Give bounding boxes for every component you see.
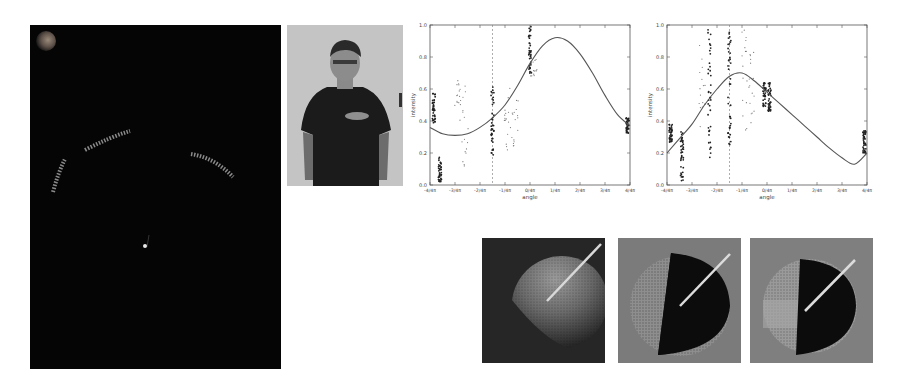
arc-marker-left-lower [53,159,65,192]
sphere-render-3-graphic [750,238,873,363]
sphere-render-3 [750,238,873,363]
rendered-scene-panel [30,25,281,369]
y-tick-label: 1.0 [656,22,664,28]
y-axis-label: intensity [647,92,654,117]
x-tick-label: -1/4π [499,188,511,193]
x-tick-label: 0/4π [762,188,772,193]
y-tick-label: 0.2 [419,150,427,156]
y-tick-label: 1.0 [419,22,427,28]
y-tick-label: 0.2 [656,150,664,156]
y-tick-label: 0.4 [656,118,664,124]
arc-marker-left-upper [85,131,130,150]
intensity-chart-1: 0.00.20.40.60.81.0-4/4π-3/4π-2/4π-1/4π0/… [406,18,646,208]
y-tick-label: 0.4 [419,118,427,124]
x-axis-label: angle [759,194,775,201]
x-tick-label: 4/4π [625,188,635,193]
pointer-line [147,235,149,247]
chart-2-plot: 0.00.20.40.60.81.0-4/4π-3/4π-2/4π-1/4π0/… [643,18,883,208]
x-tick-label: -3/4π [449,188,461,193]
intensity-chart-2: 0.00.20.40.60.81.0-4/4π-3/4π-2/4π-1/4π0/… [643,18,883,208]
sphere-icon [36,31,56,51]
x-tick-label: 1/4π [550,188,560,193]
y-axis-label: intensity [410,92,417,117]
person-photo [287,25,403,186]
plot-frame [430,25,630,185]
sphere-render-2-graphic [618,238,741,363]
x-tick-label: -3/4π [686,188,698,193]
x-tick-label: 4/4π [862,188,872,193]
sphere-render-1-graphic [482,238,605,363]
x-tick-label: -2/4π [474,188,486,193]
chart-1-plot: 0.00.20.40.60.81.0-4/4π-3/4π-2/4π-1/4π0/… [406,18,646,208]
y-tick-label: 0.6 [656,86,664,92]
x-tick-label: -1/4π [736,188,748,193]
x-tick-label: 1/4π [787,188,797,193]
y-tick-label: 0.8 [656,54,664,60]
x-tick-label: 2/4π [575,188,585,193]
x-tick-label: 0/4π [525,188,535,193]
y-tick-label: 0.8 [419,54,427,60]
rendered-scene-graphic [30,25,281,369]
x-tick-label: -2/4π [711,188,723,193]
sphere-render-2 [618,238,741,363]
x-tick-label: 2/4π [812,188,822,193]
x-axis-label: angle [522,194,538,201]
sphere-render-1 [482,238,605,363]
x-tick-label: -4/4π [424,188,436,193]
x-tick-label: 3/4π [600,188,610,193]
plot-frame [667,25,867,185]
person-photo-graphic [287,25,403,186]
x-tick-label: -4/4π [661,188,673,193]
x-tick-label: 3/4π [837,188,847,193]
bright-point [143,244,147,248]
y-tick-label: 0.6 [419,86,427,92]
arc-marker-right [191,154,233,177]
